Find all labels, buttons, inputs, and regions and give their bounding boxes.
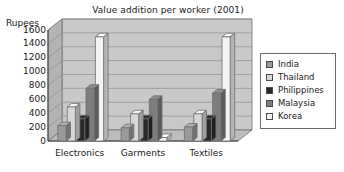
y-tick-label: 600 [18,95,46,104]
legend-label: Korea [278,112,302,121]
bar-side-malaysia [94,85,99,141]
y-tick-label: 1600 [18,26,46,35]
bar-side-korea [104,33,109,141]
bar-india-garments [121,128,129,141]
y-tick-label: 800 [18,81,46,90]
bar-side-korea [230,33,235,141]
bar-india-electronics [58,126,66,141]
y-tick-label: 0 [18,137,46,146]
legend-label: India [278,60,299,69]
x-tick-label-textiles: Textiles [165,148,248,159]
bar-side-thailand [202,110,207,141]
bar-side-philippines [211,115,216,141]
bar-india-textiles [184,127,192,141]
legend-swatch-icon [266,74,273,81]
legend-item-thailand[interactable]: Thailand [266,71,335,84]
legend-item-korea[interactable]: Korea [266,110,335,123]
bar-side-philippines [85,115,90,141]
legend-swatch-icon [266,87,273,94]
bar-side-malaysia [221,90,226,142]
bar-side-thailand [139,110,144,141]
legend-item-philippines[interactable]: Philippines [266,84,335,97]
bar-side-malaysia [158,96,163,141]
legend-label: Malaysia [278,99,315,108]
legend-label: Philippines [278,86,324,95]
chart-legend: IndiaThailandPhilippinesMalaysiaKorea [260,53,336,129]
bar-side-philippines [148,115,153,141]
y-tick-label: 200 [18,123,46,132]
legend-swatch-icon [266,113,273,120]
legend-item-malaysia[interactable]: Malaysia [266,97,335,110]
legend-swatch-icon [266,100,273,107]
legend-swatch-icon [266,61,273,68]
y-tick-label: 1400 [18,39,46,48]
legend-item-india[interactable]: India [266,58,335,71]
bar-side-thailand [75,103,80,141]
y-tick-label: 400 [18,109,46,118]
bar-side-india [66,122,71,141]
chart-container: Value addition per worker (2001) Rupees … [0,0,344,172]
y-tick-label: 1000 [18,67,46,76]
legend-label: Thailand [278,73,315,82]
y-tick-label: 1200 [18,53,46,62]
x-axis-labels: ElectronicsGarmentsTextiles [48,148,252,162]
bar-side-india [193,124,198,142]
y-axis-ticks: 02004006008001000120014001600 [14,0,46,172]
